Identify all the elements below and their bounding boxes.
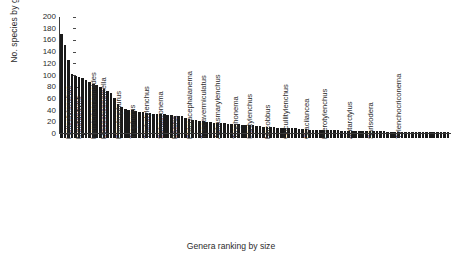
bar <box>340 131 343 133</box>
y-tick-label: 40 <box>47 107 56 115</box>
x-category-label: Gracilancea <box>303 98 311 139</box>
x-axis-title: Genera ranking by size <box>0 241 462 251</box>
bar <box>386 132 389 133</box>
x-category-label: Basiria <box>171 116 179 139</box>
bar <box>294 128 297 133</box>
x-category-label: Sphaeronema <box>157 91 165 139</box>
x-tick-mark <box>315 134 318 138</box>
bar <box>124 109 127 133</box>
bar <box>312 130 315 133</box>
x-tick-mark <box>432 134 435 138</box>
y-axis-tick-labels: 200180160140120100806040200 <box>28 11 56 139</box>
bar <box>358 131 361 133</box>
x-category-label: Cucullitylenchus <box>282 84 290 139</box>
bar <box>333 130 336 133</box>
bar <box>422 132 425 133</box>
x-tick-mark <box>418 134 421 138</box>
x-tick-mark <box>223 134 226 138</box>
bar <box>315 130 318 133</box>
bar <box>361 131 364 133</box>
x-tick-mark <box>436 134 439 138</box>
bar <box>390 132 393 133</box>
x-tick-mark <box>379 134 382 138</box>
x-tick-mark <box>330 134 333 138</box>
bar <box>415 132 418 133</box>
x-category-label: Trophonema <box>232 96 240 139</box>
x-tick-mark <box>390 134 393 138</box>
x-category-label: Thecavermiculatus <box>200 75 208 139</box>
bar <box>110 93 113 133</box>
x-tick-mark <box>181 134 184 138</box>
x-category-label: Trichotylenchus <box>143 86 151 139</box>
x-axis-category-labels: HelicotylenchusMeloidogyneHemicriconemoi… <box>60 139 451 235</box>
bar <box>181 116 184 133</box>
bar <box>330 130 333 133</box>
x-category-label: Antarctylus <box>346 101 354 139</box>
bar <box>255 126 258 133</box>
x-tick-mark <box>411 134 414 138</box>
bar <box>411 132 414 133</box>
bar <box>241 125 244 133</box>
y-tick-label: 80 <box>47 83 56 91</box>
x-tick-mark <box>273 134 276 138</box>
y-tick-label: 20 <box>47 118 56 126</box>
x-category-label: Paratrophurus <box>115 91 123 139</box>
x-tick-mark <box>241 134 244 138</box>
x-tick-mark <box>195 134 198 138</box>
bar <box>447 132 450 133</box>
x-tick-mark <box>404 134 407 138</box>
x-tick-mark <box>227 134 230 138</box>
x-tick-mark <box>340 134 343 138</box>
x-category-label: Aphasmarylenchus <box>214 74 222 139</box>
bar <box>276 128 279 133</box>
x-tick-mark <box>276 134 279 138</box>
x-category-label: Hemicriconemoides <box>90 72 98 139</box>
bar <box>404 132 407 133</box>
bar <box>85 80 88 133</box>
bar <box>376 131 379 133</box>
x-tick-mark <box>425 134 428 138</box>
x-tick-mark <box>440 134 443 138</box>
y-tick-label: 180 <box>43 25 56 33</box>
bar <box>383 131 386 133</box>
bar <box>273 127 276 133</box>
x-tick-mark <box>298 134 301 138</box>
bar <box>223 123 226 133</box>
bar <box>60 34 63 133</box>
y-tick-label: 120 <box>43 60 56 68</box>
x-tick-mark <box>376 134 379 138</box>
x-tick-mark <box>291 134 294 138</box>
y-tick-label: 200 <box>43 13 56 21</box>
x-tick-mark <box>294 134 297 138</box>
x-tick-mark <box>408 134 411 138</box>
x-tick-mark <box>60 134 63 138</box>
bar <box>418 132 421 133</box>
bar <box>209 122 212 133</box>
bar <box>440 132 443 133</box>
x-tick-mark <box>337 134 340 138</box>
x-tick-mark <box>358 134 361 138</box>
x-tick-mark <box>166 134 169 138</box>
bar <box>443 132 446 133</box>
bar <box>195 120 198 133</box>
bar <box>227 124 230 133</box>
x-tick-mark <box>443 134 446 138</box>
x-tick-mark <box>386 134 389 138</box>
x-tick-mark <box>312 134 315 138</box>
x-tick-mark <box>124 134 127 138</box>
x-tick-mark <box>138 134 141 138</box>
x-category-label: Trophurus <box>129 105 137 139</box>
bar <box>138 112 141 133</box>
x-tick-mark <box>152 134 155 138</box>
x-tick-mark <box>415 134 418 138</box>
y-tick-label: 140 <box>43 48 56 56</box>
x-category-label: Sarisodera <box>367 102 375 139</box>
chart-figure: No. species by genus 2001801601401201008… <box>0 0 462 275</box>
x-tick-mark <box>383 134 386 138</box>
bar <box>432 132 435 133</box>
y-tick-label: 60 <box>47 95 56 103</box>
x-category-label: Pterotylenchus <box>321 89 329 139</box>
bar <box>379 131 382 133</box>
x-tick-mark <box>255 134 258 138</box>
x-category-label: Discocriconemella <box>100 77 108 139</box>
